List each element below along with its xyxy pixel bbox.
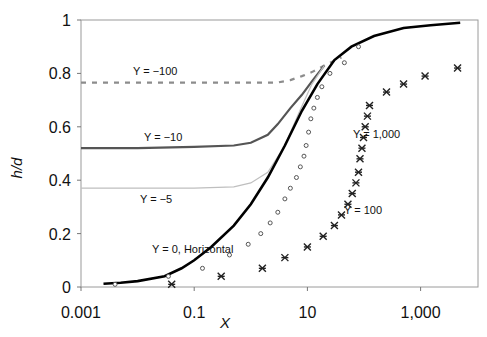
asterisk-marker bbox=[320, 233, 327, 240]
x-tick-label: 1,000 bbox=[401, 304, 441, 321]
asterisk-marker bbox=[331, 222, 338, 229]
series-y-5 bbox=[81, 65, 324, 188]
circle-marker bbox=[315, 95, 319, 99]
circle-marker bbox=[328, 71, 332, 75]
annotation-label: Y = 100 bbox=[344, 204, 382, 216]
asterisk-marker bbox=[400, 81, 407, 88]
circle-marker bbox=[312, 106, 316, 110]
asterisk-marker bbox=[304, 243, 311, 250]
circle-marker bbox=[268, 221, 272, 225]
annotation-label: Y = 1,000 bbox=[353, 128, 400, 140]
asterisk-marker bbox=[218, 273, 225, 280]
annotation-label: Y = −100 bbox=[133, 65, 177, 77]
y-tick-label: 0.4 bbox=[49, 172, 71, 189]
circle-marker bbox=[309, 117, 313, 121]
x-tick-label: 0.001 bbox=[61, 304, 101, 321]
asterisk-marker bbox=[349, 190, 356, 197]
series-y-10 bbox=[81, 65, 324, 148]
y-tick-label: 1 bbox=[62, 12, 71, 29]
circle-marker bbox=[320, 85, 324, 89]
x-tick-label: 0.1 bbox=[183, 304, 205, 321]
series-y-100 bbox=[81, 57, 342, 82]
asterisk-marker bbox=[259, 265, 266, 272]
y-axis-label: h/d bbox=[8, 157, 25, 179]
circle-marker bbox=[288, 186, 292, 190]
asterisk-marker bbox=[383, 89, 390, 96]
circle-marker bbox=[283, 197, 287, 201]
circle-marker bbox=[246, 242, 250, 246]
circle-marker bbox=[276, 210, 280, 214]
series-layer bbox=[81, 23, 461, 288]
asterisk-marker bbox=[364, 113, 371, 120]
circle-marker bbox=[302, 154, 306, 158]
circle-marker bbox=[357, 45, 361, 49]
circle-marker bbox=[294, 176, 298, 180]
circle-marker bbox=[304, 143, 308, 147]
asterisk-marker bbox=[352, 179, 359, 186]
circle-marker bbox=[342, 61, 346, 65]
circle-marker bbox=[307, 130, 311, 134]
x-tick-label: 10 bbox=[299, 304, 317, 321]
annotation-label: Y = −10 bbox=[144, 131, 182, 143]
asterisk-marker bbox=[422, 73, 429, 80]
series-y-100 bbox=[113, 45, 360, 287]
circle-marker bbox=[113, 282, 117, 286]
chart: 00.20.40.60.810.0010.1101,000Xh/d Y = −1… bbox=[0, 0, 487, 337]
axes: 00.20.40.60.810.0010.1101,000Xh/d bbox=[8, 12, 478, 331]
annotation-label: Y = −5 bbox=[140, 193, 172, 205]
asterisk-marker bbox=[355, 169, 362, 176]
annotation-label: Y = 0, Horizontal bbox=[152, 243, 233, 255]
asterisk-marker bbox=[366, 102, 373, 109]
y-tick-label: 0 bbox=[62, 279, 71, 296]
circle-marker bbox=[259, 232, 263, 236]
asterisk-marker bbox=[357, 155, 364, 162]
asterisk-marker bbox=[358, 145, 365, 152]
y-tick-label: 0.8 bbox=[49, 65, 71, 82]
annotations: Y = −100Y = −10Y = −5Y = 0, HorizontalY … bbox=[133, 65, 400, 255]
asterisk-marker bbox=[281, 254, 288, 261]
y-tick-label: 0.2 bbox=[49, 226, 71, 243]
circle-marker bbox=[200, 266, 204, 270]
circle-marker bbox=[298, 165, 302, 169]
circle-marker bbox=[166, 274, 170, 278]
asterisk-marker bbox=[454, 65, 461, 72]
x-axis-label: X bbox=[219, 314, 231, 331]
y-tick-label: 0.6 bbox=[49, 119, 71, 136]
